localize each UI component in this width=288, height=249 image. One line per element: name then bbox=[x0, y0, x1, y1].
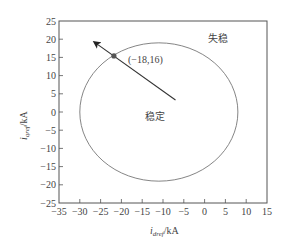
y-tick-label: 10 bbox=[46, 70, 56, 81]
x-axis-ticks: −35−30−25−20−15−10−5051015 bbox=[51, 199, 272, 217]
x-tick-label: −5 bbox=[178, 206, 189, 217]
unstable-region-label: 失稳 bbox=[208, 32, 228, 44]
x-tick-label: −20 bbox=[114, 206, 130, 217]
y-tick-label: −5 bbox=[45, 125, 56, 136]
y-tick-label: 15 bbox=[46, 52, 56, 63]
y-tick-label: −20 bbox=[40, 179, 56, 190]
y-axis-ticks: −25−20−15−10−50510152025 bbox=[40, 16, 63, 209]
intersection-point bbox=[111, 53, 116, 58]
y-tick-label: 20 bbox=[46, 34, 56, 45]
x-tick-label: −15 bbox=[134, 206, 150, 217]
y-axis-label: iqref/kA bbox=[18, 110, 31, 140]
chart-canvas: −35−30−25−20−15−10−5051015 −25−20−15−10−… bbox=[0, 0, 288, 249]
x-tick-label: 0 bbox=[202, 206, 207, 217]
stable-region-label: 稳定 bbox=[145, 110, 165, 122]
y-tick-label: 5 bbox=[51, 88, 56, 99]
x-tick-label: 10 bbox=[241, 206, 251, 217]
trajectory-arrow bbox=[94, 42, 175, 100]
x-tick-label: −10 bbox=[155, 206, 171, 217]
x-tick-label: 5 bbox=[223, 206, 228, 217]
y-tick-label: −10 bbox=[40, 143, 56, 154]
y-tick-label: −25 bbox=[40, 198, 56, 209]
y-tick-label: 25 bbox=[46, 16, 56, 27]
x-tick-label: −25 bbox=[93, 206, 109, 217]
y-tick-label: 0 bbox=[51, 107, 56, 118]
y-tick-label: −15 bbox=[40, 161, 56, 172]
point-label: (−18,16) bbox=[128, 54, 163, 66]
x-tick-label: 15 bbox=[262, 206, 272, 217]
x-axis-label: idref/kA bbox=[150, 225, 180, 238]
x-tick-label: −30 bbox=[72, 206, 88, 217]
